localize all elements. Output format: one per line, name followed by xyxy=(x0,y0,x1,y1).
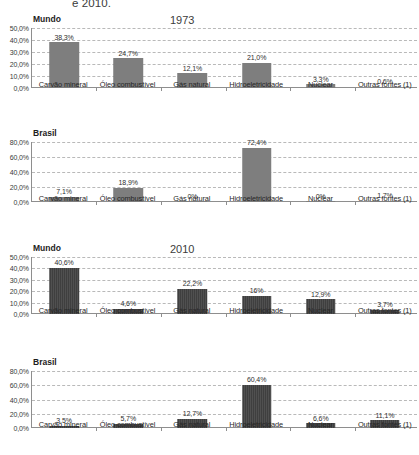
x-category-label: Outras fontes (1) xyxy=(353,420,417,429)
x-category-label: Outras fontes (1) xyxy=(353,80,417,89)
bar-slot: 18,9% xyxy=(96,142,160,202)
x-category-label: Gás natural xyxy=(160,80,224,89)
bar-slot: 21,0% xyxy=(225,28,289,88)
x-category-label: Carvão mineral xyxy=(31,420,95,429)
x-category-label: Hidroeletricidade xyxy=(224,306,288,315)
y-tick-label: 30,0% xyxy=(10,49,29,56)
y-axis-labels: 0,0%10,0%20,0%30,0%40,0%50,0% xyxy=(0,257,31,314)
y-axis-labels: 0,0%20,0%40,0%60,0%80,0% xyxy=(0,142,31,202)
x-category-label: Nuclear xyxy=(288,80,352,89)
y-tick-label: 60,0% xyxy=(10,382,29,389)
x-category-label: Carvão mineral xyxy=(31,194,95,203)
x-category-label: Carvão mineral xyxy=(31,306,95,315)
x-category-label: Nuclear xyxy=(288,306,352,315)
caption-strip: e 2010. xyxy=(0,0,419,16)
y-tick-label: 60,0% xyxy=(10,154,29,161)
bar-value-label: 21,0% xyxy=(247,54,266,61)
x-category-label: Óleo combustível xyxy=(95,194,159,203)
bar-slot: 72,4% xyxy=(225,142,289,202)
plot-canvas: 38,3%24,7%12,1%21,0%3,3%0,6% xyxy=(31,28,419,88)
y-tick-label: 40,0% xyxy=(10,169,29,176)
y-tick-label: 80,0% xyxy=(10,139,29,146)
bar-group: 38,3%24,7%12,1%21,0%3,3%0,6% xyxy=(32,28,417,88)
bar-value-label: 18,9% xyxy=(119,179,138,186)
x-category-label: Nuclear xyxy=(288,194,352,203)
x-axis-labels: Carvão mineralÓleo combustívelGás natura… xyxy=(31,420,417,429)
y-tick-label: 30,0% xyxy=(10,276,29,283)
y-axis-labels: 0,0%20,0%40,0%60,0%80,0% xyxy=(0,371,31,428)
bar-slot: 3,3% xyxy=(289,28,353,88)
bar-value-label: 24,7% xyxy=(119,50,138,57)
y-tick-label: 80,0% xyxy=(10,368,29,375)
y-tick-label: 40,0% xyxy=(10,265,29,272)
y-tick-label: 20,0% xyxy=(10,184,29,191)
bar-value-label: 12,1% xyxy=(183,65,202,72)
y-axis-labels: 0,0%10,0%20,0%30,0%40,0%50,0% xyxy=(0,28,31,88)
x-category-label: Outras fontes (1) xyxy=(353,306,417,315)
chart-year-title: 2010 xyxy=(170,243,194,255)
x-category-label: Nuclear xyxy=(288,420,352,429)
bar-slot: 0,6% xyxy=(353,28,417,88)
bar-value-label: 12,7% xyxy=(183,410,202,417)
plot-area: 0,0%10,0%20,0%30,0%40,0%50,0%38,3%24,7%1… xyxy=(0,28,419,88)
y-tick-label: 20,0% xyxy=(10,410,29,417)
y-tick-label: 0,0% xyxy=(13,425,29,432)
y-tick-label: 0,0% xyxy=(13,311,29,318)
figure-caption-fragment: e 2010. xyxy=(72,0,111,9)
bar-value-label: 72,4% xyxy=(247,139,266,146)
bar-slot: 0% xyxy=(160,142,224,202)
chart-region-title: Mundo xyxy=(33,14,61,24)
x-axis-labels: Carvão mineralÓleo combustívelGás natura… xyxy=(31,306,417,315)
bar-value-label: 60,4% xyxy=(247,376,266,383)
x-category-label: Óleo combustível xyxy=(95,420,159,429)
chart-region-title: Brasil xyxy=(33,128,57,138)
chart-region-title: Brasil xyxy=(33,357,57,367)
figure-root: e 2010. Mundo19730,0%10,0%20,0%30,0%40,0… xyxy=(0,0,419,455)
chart-year-title: 1973 xyxy=(170,14,194,26)
y-tick-label: 10,0% xyxy=(10,299,29,306)
bar-slot: 38,3% xyxy=(32,28,96,88)
bar-value-label: 12,9% xyxy=(311,291,330,298)
y-tick-label: 50,0% xyxy=(10,25,29,32)
bar-value-label: 40,6% xyxy=(54,259,73,266)
y-tick-label: 20,0% xyxy=(10,288,29,295)
bar-value-label: 38,3% xyxy=(54,34,73,41)
bar-value-label: 16% xyxy=(250,287,264,294)
bar-slot: 7,1% xyxy=(32,142,96,202)
bar-group: 7,1%18,9%0%72,4%0%1,7% xyxy=(32,142,417,202)
x-category-label: Hidroeletricidade xyxy=(224,194,288,203)
y-tick-label: 0,0% xyxy=(13,199,29,206)
x-category-label: Gás natural xyxy=(160,306,224,315)
plot-area: 0,0%20,0%40,0%60,0%80,0%7,1%18,9%0%72,4%… xyxy=(0,142,419,202)
x-category-label: Hidroeletricidade xyxy=(224,80,288,89)
plot-canvas: 7,1%18,9%0%72,4%0%1,7% xyxy=(31,142,419,202)
x-category-label: Carvão mineral xyxy=(31,80,95,89)
x-category-label: Óleo combustível xyxy=(95,306,159,315)
x-category-label: Hidroeletricidade xyxy=(224,420,288,429)
y-tick-label: 40,0% xyxy=(10,37,29,44)
chart-region-title: Mundo xyxy=(33,243,61,253)
bar-slot: 12,1% xyxy=(160,28,224,88)
x-category-label: Gás natural xyxy=(160,420,224,429)
bar-slot: 1,7% xyxy=(353,142,417,202)
y-tick-label: 0,0% xyxy=(13,85,29,92)
y-tick-label: 20,0% xyxy=(10,61,29,68)
bar-slot: 24,7% xyxy=(96,28,160,88)
x-axis-labels: Carvão mineralÓleo combustívelGás natura… xyxy=(31,194,417,203)
y-tick-label: 50,0% xyxy=(10,254,29,261)
bar-slot: 0% xyxy=(289,142,353,202)
x-category-label: Outras fontes (1) xyxy=(353,194,417,203)
y-tick-label: 40,0% xyxy=(10,396,29,403)
bar-value-label: 11,1% xyxy=(376,412,395,419)
x-category-label: Gás natural xyxy=(160,194,224,203)
bar-value-label: 22,2% xyxy=(183,280,202,287)
x-axis-labels: Carvão mineralÓleo combustívelGás natura… xyxy=(31,80,417,89)
x-category-label: Óleo combustível xyxy=(95,80,159,89)
y-tick-label: 10,0% xyxy=(10,73,29,80)
